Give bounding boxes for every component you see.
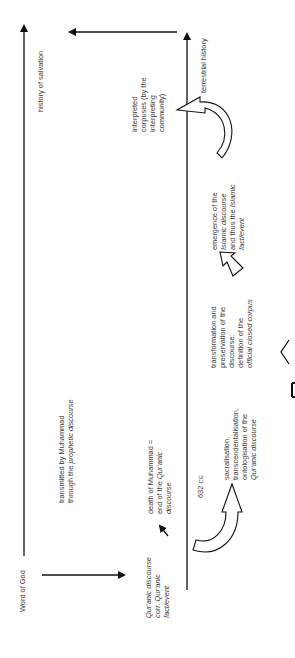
quranic-line-2: corr. Qur'anic (153, 557, 162, 618)
interpreted-line-4: community) (157, 77, 166, 132)
partial-glyph-shape (292, 383, 295, 397)
sacral-line-3: ontologisation of the (240, 408, 249, 480)
death-of-muhammad-label: death of Muhammad = end of the Qur'anic … (146, 440, 173, 514)
transformation-hollow-arrow-icon (220, 252, 243, 276)
sacral-line-4: Qur'anic discourse (249, 408, 258, 480)
emergence-line-3: and thus the Islamic (228, 184, 237, 250)
transmitted-line-2-prefix: through the (66, 464, 75, 503)
emergence-line-2: Islamic discourse (219, 184, 228, 250)
quranic-discourse-label: Qur'anic discourse corr. Qur'anic fact/e… (144, 557, 171, 618)
transform-line-2: preservation of the (218, 299, 227, 368)
interpretation-curved-arrow-icon (177, 97, 232, 158)
emergence-line-3-italic: Islamic (228, 184, 237, 207)
terrestrial-history-label: terrestrial history (199, 38, 208, 93)
emergence-label: emergence of the Islamic discourse and t… (210, 184, 246, 250)
transform-line-3: discourse: (227, 299, 236, 368)
interpreted-corpuses-label: interpreted corpuses (by the interpretin… (130, 77, 166, 132)
date-number: 632 (196, 486, 205, 498)
word-of-god-label: Word of God (18, 570, 27, 612)
interpreted-line-1: interpreted (130, 77, 139, 132)
transmitted-label: transmitted by Muhammad through the prop… (57, 399, 75, 503)
transform-line-1: transformation and (209, 299, 218, 368)
prophetic-discourse-term: prophetic discourse (66, 399, 75, 463)
emergence-line-3-prefix: and thus the (228, 207, 237, 250)
quranic-line-1: Qur'anic discourse (144, 557, 153, 618)
transformation-label: transformation and preservation of the d… (209, 299, 254, 368)
transform-line-4: definition of the (236, 299, 245, 368)
sacral-line-1: sacralisation, (222, 408, 231, 480)
sacral-line-2: transcendentalisation, (231, 408, 240, 480)
death-line-1: death of Muhammad = (146, 440, 155, 514)
death-pointer-arrow (160, 526, 168, 536)
date-label: 632 CE (196, 475, 206, 498)
diamond-shape-icon (281, 340, 289, 364)
interpreted-line-3: interpreting (148, 77, 157, 132)
emergence-line-1: emergence of the (210, 184, 219, 250)
date-era: CE (198, 475, 204, 484)
transmitted-line-1: transmitted by Muhammad (57, 399, 66, 503)
quranic-line-3: fact/event (162, 557, 171, 618)
death-line-2-italic: Qur'anic (155, 452, 164, 479)
sacralisation-label: sacralisation, transcendentalisation, on… (222, 408, 258, 480)
death-line-3: discourse (164, 440, 173, 514)
emergence-line-4: fact/event (237, 184, 246, 250)
death-line-2: end of the Qur'anic (155, 440, 164, 514)
interpreted-line-2: corpuses (by the (139, 77, 148, 132)
transmitted-line-2: through the prophetic discourse (66, 399, 75, 503)
death-line-2-prefix: end of the (155, 479, 164, 514)
history-of-salvation-label: history of salvation (36, 51, 45, 112)
transform-line-5: official closed corpus (245, 299, 254, 368)
